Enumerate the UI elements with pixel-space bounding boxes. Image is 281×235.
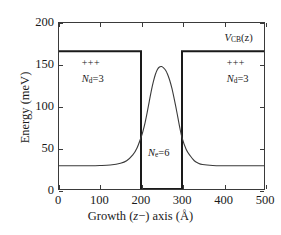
figure: VCB(z) +++ Nd=3 +++ Nd=3 Ne=6 0100200300… [0,0,281,235]
x-tick-500 [266,185,267,189]
y-tick-50 [59,149,63,150]
x-tick-300 [183,23,184,27]
x-tick-100 [100,23,101,27]
y-tick-0 [260,191,264,192]
x-axis-title: Growth (z−) axis (Å) [0,209,281,224]
y-tick-100 [260,107,264,108]
x-axis-title-head: Growth ( [88,209,133,223]
vcb-argument: (z) [241,32,253,43]
y-tick-0 [59,191,63,192]
chart-canvas [59,23,264,189]
y-tick-150 [59,65,63,66]
plot-area: VCB(z) +++ Nd=3 +++ Nd=3 Ne=6 [58,22,265,190]
annotation-nd-left: Nd=3 [82,73,104,86]
x-tick-0 [59,185,60,189]
series-vcb-step [59,51,264,189]
annotation-ne-well: Ne=6 [148,147,170,160]
annotation-plus-left: +++ [82,57,100,68]
y-axis-title: Energy (meV) [18,23,33,193]
x-axis-title-tail: −) axis (Å) [138,209,193,223]
y-tick-150 [260,65,264,66]
y-tick-50 [260,149,264,150]
x-tick-500 [266,23,267,27]
nd-symbol-right: N [227,73,234,84]
annotation-nd-right: Nd=3 [227,73,249,86]
nd-value-right: =3 [237,73,248,84]
x-tick-100 [100,185,101,189]
annotation-plus-right: +++ [227,57,245,68]
y-tick-200 [260,23,264,24]
x-tick-200 [142,23,143,27]
y-tick-100 [59,107,63,108]
x-tick-400 [225,185,226,189]
x-tick-200 [142,185,143,189]
nd-value-left: =3 [93,73,104,84]
x-tick-label-500: 500 [235,193,281,207]
x-tick-300 [183,185,184,189]
vcb-subscript: CB [231,35,241,44]
annotation-vcb: VCB(z) [225,32,253,45]
ne-value: =6 [158,147,169,158]
y-tick-200 [59,23,63,24]
x-tick-400 [225,23,226,27]
ne-symbol: N [148,147,155,158]
nd-symbol-left: N [82,73,89,84]
